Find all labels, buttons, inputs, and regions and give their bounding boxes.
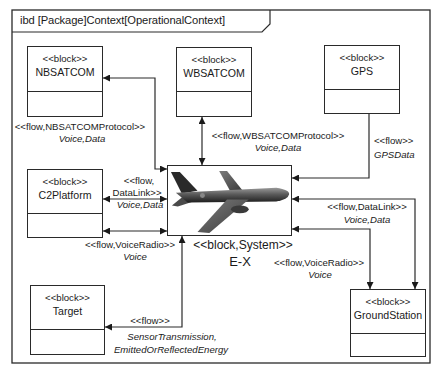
flow-label-gps: <<flow>> [374,135,413,147]
flow-label-wbsatcom: <<flow,WBSATCOMProtocol>> [212,130,345,142]
flow-items-c2-voiceradio: Voice [123,251,147,263]
block-name-compartment: <<block>> C2Platform [28,170,102,214]
block-stereotype: <<block>> [28,52,102,65]
flow-label-target: <<flow>> [130,315,169,327]
block-stereotype: <<block>> [351,295,425,308]
flow-label-c2-voiceradio: <<flow,VoiceRadio>> [85,239,175,251]
diagram-title: ibd [Package]Context[OperationalContext] [20,12,225,28]
block-system-ex [167,165,292,236]
flow-items-groundstation-voiceradio: Voice [308,269,332,281]
flow-label-groundstation-voiceradio: <<flow,VoiceRadio>> [274,257,364,269]
flow-items-groundstation-datalink: Voice,Data [344,214,391,226]
block-stereotype: <<block>> [177,53,251,66]
block-groundstation: <<block>> GroundStation [350,289,426,357]
block-name-compartment: <<block>> WBSATCOM [177,48,251,92]
block-name-compartment: <<block>> GPS [325,46,399,90]
block-name: C2Platform [28,188,102,202]
block-stereotype: <<block>> [325,51,399,64]
block-name: GPS [325,64,399,78]
airplane-icon [168,166,291,235]
flow-items-nbsatcom: Voice,Data [59,133,106,145]
flow-label-nbsatcom: <<flow,NBSATCOMProtocol>> [15,121,145,133]
block-name-compartment: <<block>> GroundStation [351,290,425,334]
connector-gps [292,114,369,178]
block-name: Target [31,304,104,318]
system-name: E-X [229,256,251,268]
system-stereotype: <<block,System>> [193,239,292,251]
block-nbsatcom: <<block>> NBSATCOM [27,46,103,117]
flow-items-c2-datalink: Voice,Data [117,199,164,211]
block-name: WBSATCOM [177,66,251,80]
block-name-compartment: <<block>> NBSATCOM [28,47,102,92]
block-name-compartment: <<block>> Target [31,286,104,330]
block-name: NBSATCOM [28,65,102,79]
flow-label-groundstation-datalink: <<flow,DataLink>> [327,201,406,213]
flow-items-target-line1: SensorTransmission, [127,331,216,343]
block-stereotype: <<block>> [31,291,104,304]
block-target: <<block>> Target [30,285,105,355]
flow-items-target-line2: EmittedOrReflectedEnergy [114,344,228,356]
ibd-diagram: ibd [Package]Context[OperationalContext]… [0,0,440,374]
flow-items-wbsatcom: Voice,Data [255,142,302,154]
block-gps: <<block>> GPS [324,45,400,114]
flow-items-gps: GPSData [374,149,415,161]
block-stereotype: <<block>> [28,175,102,188]
flow-label-c2-datalink-line1: <<flow, [124,175,154,187]
block-name: GroundStation [351,308,425,322]
flow-label-c2-datalink-line2: DataLink>> [112,187,161,199]
block-c2platform: <<block>> C2Platform [27,169,103,238]
block-wbsatcom: <<block>> WBSATCOM [176,47,252,117]
